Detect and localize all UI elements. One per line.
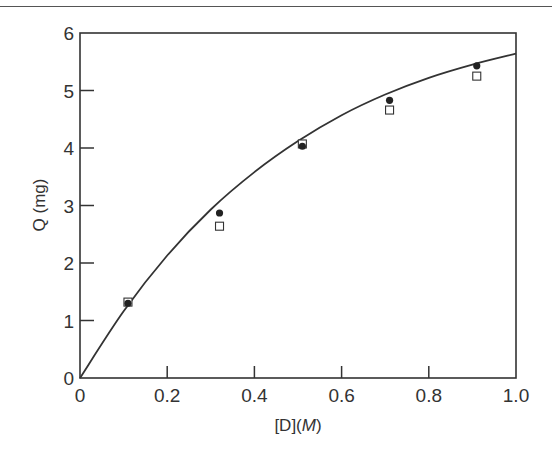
x-tick-label: 1.0 bbox=[503, 385, 529, 406]
open-square-marker bbox=[216, 222, 224, 230]
open-square-marker bbox=[386, 106, 394, 114]
open-square-marker bbox=[473, 72, 481, 80]
x-tick-label: 0 bbox=[75, 385, 86, 406]
y-axis-label: Q (mg) bbox=[30, 179, 49, 232]
y-tick-label: 5 bbox=[63, 81, 74, 102]
plot-border bbox=[80, 33, 516, 378]
y-axis-ticks: 0123456 bbox=[63, 23, 94, 389]
y-tick-label: 3 bbox=[63, 196, 74, 217]
x-axis-label: [D](M) bbox=[274, 416, 321, 435]
chart: 00.20.40.60.81.0 0123456 [D](M) Q (mg) bbox=[0, 0, 552, 454]
x-axis-ticks: 00.20.40.60.81.0 bbox=[75, 366, 530, 406]
fit-curve-line bbox=[80, 54, 516, 378]
x-tick-label: 0.8 bbox=[416, 385, 442, 406]
y-tick-label: 1 bbox=[63, 311, 74, 332]
x-tick-label: 0.6 bbox=[328, 385, 354, 406]
filled-circle-marker bbox=[124, 300, 131, 307]
y-tick-label: 4 bbox=[63, 138, 74, 159]
filled-circle-marker bbox=[216, 209, 223, 216]
y-tick-label: 6 bbox=[63, 23, 74, 44]
filled-circle-marker bbox=[386, 97, 393, 104]
y-tick-label: 0 bbox=[63, 368, 74, 389]
x-tick-label: 0.4 bbox=[241, 385, 268, 406]
y-tick-label: 2 bbox=[63, 253, 74, 274]
fitted-curve bbox=[80, 54, 516, 378]
data-markers bbox=[124, 62, 481, 307]
x-tick-label: 0.2 bbox=[154, 385, 180, 406]
filled-circle-marker bbox=[299, 143, 306, 150]
filled-circle-marker bbox=[473, 62, 480, 69]
plot-frame bbox=[80, 33, 516, 378]
